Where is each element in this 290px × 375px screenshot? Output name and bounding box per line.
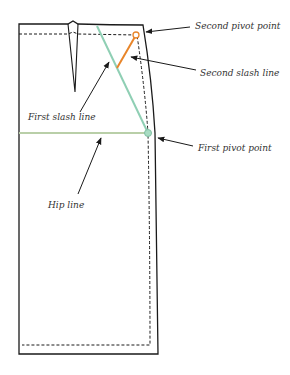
pattern-diagram: Second pivot point Second slash line Fir… xyxy=(0,0,290,375)
label-hip-line: Hip line xyxy=(47,200,84,210)
label-second-pivot-point: Second pivot point xyxy=(195,21,281,31)
label-first-slash-line: First slash line xyxy=(27,112,96,122)
arrow-first-slash xyxy=(80,62,109,112)
skirt-outline xyxy=(19,21,158,354)
arrow-second-pivot xyxy=(146,27,190,32)
arrow-first-pivot xyxy=(158,138,193,146)
seam-allowance-line xyxy=(19,32,150,345)
label-second-slash-line: Second slash line xyxy=(200,68,279,78)
arrow-hip-line xyxy=(78,138,101,194)
label-first-pivot-point: First pivot point xyxy=(197,143,272,153)
second-slash-line xyxy=(117,35,136,68)
dart xyxy=(68,24,78,92)
second-pivot-point-marker xyxy=(133,32,139,38)
first-pivot-point-marker xyxy=(145,130,152,137)
first-slash-line xyxy=(97,26,148,133)
